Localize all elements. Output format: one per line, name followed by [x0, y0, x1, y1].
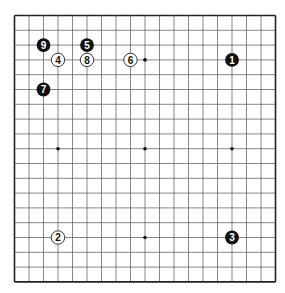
star-point [56, 147, 60, 151]
move-number: 1 [229, 55, 235, 66]
white-stone: 4 [51, 53, 64, 66]
move-number: 8 [84, 55, 90, 66]
star-point [143, 236, 147, 240]
star-point [143, 58, 147, 62]
move-number: 3 [229, 232, 235, 243]
move-number: 7 [41, 84, 47, 95]
black-stone: 5 [80, 38, 94, 52]
white-stone: 2 [51, 231, 64, 244]
black-stone: 1 [225, 53, 239, 67]
white-stone: 6 [124, 53, 137, 66]
stones: 123456789 [37, 38, 239, 244]
star-point [230, 147, 234, 151]
go-board: 123456789 [0, 0, 285, 293]
star-point [143, 147, 147, 151]
move-number: 4 [55, 55, 61, 66]
move-number: 2 [55, 232, 61, 243]
move-number: 9 [41, 40, 47, 51]
black-stone: 9 [37, 38, 51, 52]
black-stone: 7 [37, 83, 51, 97]
black-stone: 3 [225, 231, 239, 245]
move-number: 5 [84, 40, 90, 51]
move-number: 6 [128, 55, 134, 66]
white-stone: 8 [80, 53, 93, 66]
